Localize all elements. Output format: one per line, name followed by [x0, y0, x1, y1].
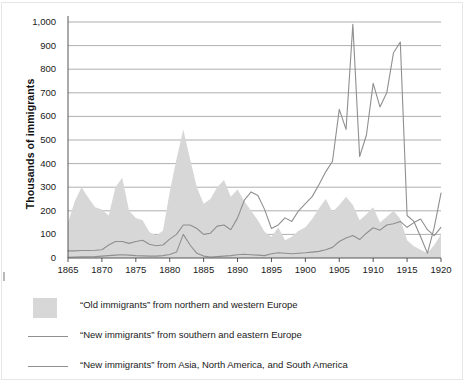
chart-legend: “Old immigrants” from northern and weste…	[0, 296, 466, 384]
chart-plot-region: Thousands of immigrants 1,00090080070060…	[0, 0, 466, 290]
y-tick-label: 0	[16, 252, 56, 263]
y-tick-label: 300	[16, 181, 56, 192]
y-tick-label: 100	[16, 228, 56, 239]
y-tick-label: 800	[16, 63, 56, 74]
y-tick-label: 1,000	[16, 16, 56, 27]
y-tick-label: 200	[16, 205, 56, 216]
legend-label-new-immigrants-europe: “New immigrants” from southern and easte…	[80, 329, 302, 340]
legend-label-old-immigrants: “Old immigrants” from northern and weste…	[80, 299, 298, 310]
legend-label-new-immigrants-americas-asia: “New immigrants” from Asia, North Americ…	[80, 359, 348, 370]
data-series-group	[68, 24, 441, 258]
legend-item-new-immigrants-americas-asia: “New immigrants” from Asia, North Americ…	[0, 356, 466, 384]
chart-svg	[0, 0, 466, 290]
x-tick-label: 1920	[421, 264, 461, 275]
y-tick-label: 600	[16, 110, 56, 121]
legend-line-swatch-icon	[28, 336, 68, 337]
y-tick-label: 400	[16, 158, 56, 169]
legend-item-old-immigrants: “Old immigrants” from northern and weste…	[0, 296, 466, 326]
legend-item-new-immigrants-europe: “New immigrants” from southern and easte…	[0, 326, 466, 356]
x-tick-marks-group	[68, 258, 441, 262]
legend-line-swatch-icon	[28, 366, 68, 367]
y-tick-label: 900	[16, 40, 56, 51]
y-tick-label: 500	[16, 134, 56, 145]
legend-area-swatch-icon	[33, 298, 57, 318]
y-tick-label: 700	[16, 87, 56, 98]
immigration-chart-figure: Thousands of immigrants 1,00090080070060…	[0, 0, 466, 384]
